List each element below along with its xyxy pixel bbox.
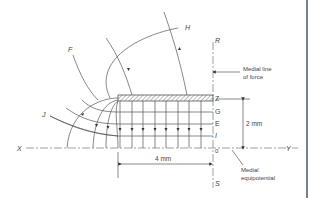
label-f: F xyxy=(68,46,73,53)
label-y: Y xyxy=(286,145,292,152)
label-x: X xyxy=(16,145,22,152)
annotation-2mm: 2 mm xyxy=(246,120,262,127)
fringing-arrows xyxy=(81,113,110,129)
field-line-upper-right xyxy=(164,12,187,95)
field-lines-vertical xyxy=(120,101,201,148)
label-j: J xyxy=(41,111,46,118)
electrode-plate xyxy=(118,95,213,101)
label-h: H xyxy=(185,24,191,31)
fringing-equipotentials xyxy=(50,100,118,136)
annotation-medial-line-1: Medial line xyxy=(243,66,272,72)
label-e: E xyxy=(215,120,220,127)
label-r: R xyxy=(215,37,220,44)
annotation-medial-line-2: of force xyxy=(243,74,264,80)
label-origin: 0 xyxy=(215,148,219,154)
label-s: S xyxy=(215,180,220,187)
label-g: G xyxy=(215,108,220,115)
label-z: Z xyxy=(215,95,220,102)
upper-arrows xyxy=(127,47,181,71)
field-diagram: F H J R S X Y Z G E I 0 Medial line of f… xyxy=(0,0,310,198)
dimension-2mm xyxy=(216,99,250,148)
medial-equi-pointer xyxy=(232,150,243,165)
annotation-4mm: 4 mm xyxy=(155,155,171,162)
annotation-medial-equi-2: equipotential xyxy=(241,175,275,181)
field-arrows xyxy=(119,128,203,131)
label-i: I xyxy=(215,132,217,139)
annotation-medial-equi-1: Medial xyxy=(241,167,259,173)
curve-f xyxy=(73,55,98,100)
curve-h xyxy=(106,28,178,98)
fringing-field-lines xyxy=(67,98,118,148)
frame-border xyxy=(306,0,308,198)
